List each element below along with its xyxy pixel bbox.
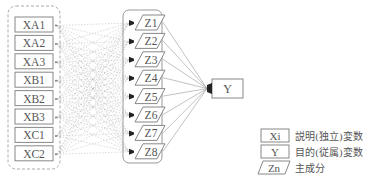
input-label: XB3 [23,111,45,123]
input-node: XC1 [15,127,57,142]
component-node: Z2 [129,33,165,48]
component-label: Z3 [145,54,158,66]
pca-regression-diagram: XA1XA2XA3XB1XB2XB3XC1XC2 Z1Z2Z3Z4Z5Z6Z7Z… [0,0,385,177]
component-node: Z5 [129,89,165,104]
component-nodes: Z1Z2Z3Z4Z5Z6Z7Z8 [129,15,165,159]
component-node: Z3 [129,52,165,67]
output-node: Y [207,79,243,98]
input-label: XC2 [23,148,45,160]
input-node: XA2 [15,35,57,50]
component-node: Z6 [129,107,165,122]
input-label: XA3 [23,56,46,68]
input-nodes: XA1XA2XA3XB1XB2XB3XC1XC2 [15,17,57,161]
edge-input-component [57,23,129,26]
component-to-output-edges [163,23,207,152]
input-to-component-edges [57,23,129,154]
component-node: Z7 [129,125,165,140]
port-dot [55,61,57,63]
edge-input-component [57,78,129,154]
legend-label: 主成分 [295,163,325,174]
port-dot [55,25,57,27]
arrowhead-icon [129,112,134,118]
arrowhead-icon [129,149,134,155]
input-node: XB3 [15,109,57,124]
edge-component-output [163,41,207,89]
edge-input-component [57,23,129,136]
port-dot [55,43,57,45]
component-node: Z4 [129,70,165,85]
component-label: Z2 [145,35,158,47]
edge-input-component [57,152,129,155]
legend-symbol: Y [271,146,279,158]
legend-item-explanatory: Xi 説明(独立)変数 [261,129,363,142]
legend-symbol: Zn [268,162,281,174]
arrowhead-icon [129,20,134,26]
legend-symbol: Xi [270,130,281,142]
input-label: XB2 [23,93,45,105]
input-label: XA2 [23,37,46,49]
input-node: XC2 [15,146,57,161]
component-label: Z1 [145,17,158,29]
port-dot [55,135,57,137]
component-label: Z7 [145,127,158,139]
edge-input-component [57,41,129,154]
component-label: Z6 [145,109,158,121]
port-dot [55,117,57,119]
input-label: XC1 [23,129,45,141]
edge-component-output [163,59,207,88]
edge-component-output [163,78,207,89]
component-label: Z8 [145,146,158,158]
output-label: Y [223,82,232,96]
legend-item-dependent: Y 目的(従属)変数 [261,145,363,158]
edge-input-component [57,23,129,99]
port-dot [55,98,57,100]
component-label: Z5 [145,91,158,103]
input-label: XA1 [23,19,46,31]
input-label: XB1 [23,74,45,86]
arrowhead-icon [207,83,212,94]
arrowhead-icon [129,57,134,63]
component-node: Z8 [129,144,165,159]
legend: Xi 説明(独立)変数 Y 目的(従属)変数 Zn 主成分 [258,129,363,174]
port-dot [55,153,57,155]
input-node: XA1 [15,17,57,32]
legend-item-component: Zn 主成分 [258,161,325,174]
arrowhead-icon [129,38,134,44]
arrowhead-icon [129,94,134,100]
port-dot [55,80,57,82]
arrowhead-icon [129,130,134,136]
input-node: XA3 [15,54,57,69]
component-node: Z1 [129,15,165,30]
arrowhead-icon [129,75,134,81]
legend-label: 目的(従属)変数 [295,146,363,158]
input-node: XB1 [15,72,57,87]
edge-component-output [163,23,207,89]
input-node: XB2 [15,91,57,106]
component-label: Z4 [145,72,158,84]
legend-label: 説明(独立)変数 [295,130,363,142]
edge-component-output [163,89,207,152]
